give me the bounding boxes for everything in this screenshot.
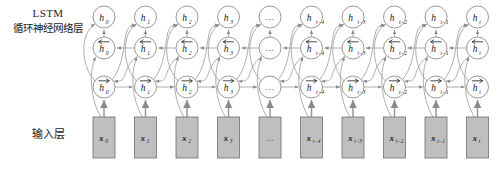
node-output-2[interactable]: h2 [176,6,198,28]
node-label: h [431,44,436,54]
node-subscript: t−1 [440,50,448,56]
node-subscript: 2 [189,50,192,56]
node-circle [176,76,198,98]
node-ellipsis: … [266,12,274,22]
input-box-rect [135,117,157,158]
node-output-7[interactable]: ht−2 [384,6,408,28]
input-box-4[interactable]: … [259,117,281,158]
input-box-3[interactable]: x3 [218,117,240,158]
input-box-2[interactable]: x2 [176,117,198,158]
node-backward-5[interactable]: ht−4 [301,37,325,59]
input-box-9[interactable]: xt [467,117,489,158]
node-forward-3[interactable]: h3 [218,76,240,98]
node-backward-1[interactable]: h1 [135,37,157,59]
node-label: h [473,44,478,54]
bilstm-diagram: LSTM 循环神经网络层 输入层 h0h0h0x0h1h1h1x1h2h2h2x… [0,0,503,174]
node-circle [384,76,406,98]
node-output-9[interactable]: ht [467,6,489,28]
node-label: h [182,83,187,93]
edge-skip-forward [237,26,261,80]
node-backward-3[interactable]: h3 [218,37,240,59]
edge-forward-to-output [208,24,219,81]
input-box-6[interactable]: xt−3 [342,117,364,158]
node-label: h [307,83,312,93]
node-label: h [182,13,187,23]
node-label: h [431,13,436,23]
node-output-8[interactable]: ht−1 [425,6,449,28]
node-label: h [473,13,478,23]
node-subscript: 0 [106,50,109,56]
node-label: h [224,83,229,93]
node-forward-6[interactable]: ht−3 [342,76,366,98]
edge-forward-to-output [416,24,427,81]
node-backward-8[interactable]: ht−1 [425,37,449,59]
edge-forward-to-output [167,24,178,81]
node-forward-0[interactable]: h0 [93,76,115,98]
node-subscript: t−2 [399,19,407,25]
input-subscript: 3 [229,138,233,144]
node-backward-7[interactable]: ht−2 [384,37,408,59]
input-box-8[interactable]: xt−1 [425,117,447,158]
node-forward-7[interactable]: ht−2 [384,76,408,98]
node-circle [135,76,157,98]
input-box-7[interactable]: xt−2 [384,117,406,158]
node-forward-8[interactable]: ht−1 [425,76,449,98]
node-circle [384,37,406,59]
node-output-4[interactable]: … [259,6,281,28]
node-circle [301,76,323,98]
node-output-6[interactable]: ht−3 [342,6,366,28]
edge-forward-to-output [333,24,344,81]
node-subscript: 1 [147,50,150,56]
node-subscript: 2 [189,19,192,25]
node-subscript: t−4 [316,50,324,56]
input-subscript: t−3 [354,138,362,144]
node-backward-6[interactable]: ht−3 [342,37,366,59]
edge-skip-forward [195,26,219,80]
node-subscript: t−1 [440,89,448,95]
node-output-3[interactable]: h3 [218,6,240,28]
node-subscript: t−3 [357,50,365,56]
node-label: h [348,44,353,54]
node-label: h [99,83,104,93]
node-forward-9[interactable]: ht [467,76,489,98]
node-circle [218,76,240,98]
node-backward-4[interactable]: … [259,37,281,59]
node-circle [93,37,115,59]
node-output-0[interactable]: h0 [93,6,115,28]
node-forward-4[interactable]: … [259,76,281,98]
node-label: h [224,13,229,23]
input-label: x [98,133,104,143]
node-output-1[interactable]: h1 [135,6,157,28]
node-output-5[interactable]: ht−4 [301,6,325,28]
node-ellipsis: … [266,82,274,92]
node-circle [342,6,364,28]
node-circle [218,6,240,28]
node-subscript: 3 [229,19,233,25]
input-label: x [306,133,312,143]
node-subscript: 2 [189,89,192,95]
node-label: h [141,83,146,93]
node-backward-2[interactable]: h2 [176,37,198,59]
input-box-5[interactable]: xt−4 [301,117,323,158]
node-circle [301,6,323,28]
input-ellipsis: … [266,134,273,143]
input-subscript: 2 [188,138,191,144]
node-forward-1[interactable]: h1 [135,76,157,98]
edge-skip-forward [112,26,136,80]
node-subscript: 1 [147,19,150,25]
edge-forward-to-output [374,24,385,81]
node-subscript: 0 [106,89,109,95]
node-forward-5[interactable]: ht−4 [301,76,325,98]
input-box-rect [218,117,240,158]
input-label: x [430,133,436,143]
node-circle [467,37,489,59]
node-backward-0[interactable]: h0 [93,37,115,59]
node-subscript: t−2 [399,50,407,56]
node-forward-2[interactable]: h2 [176,76,198,98]
node-backward-9[interactable]: ht [467,37,489,59]
node-circle [176,6,198,28]
node-subscript: 3 [229,89,233,95]
input-box-1[interactable]: x1 [135,117,157,158]
input-box-0[interactable]: x0 [93,117,115,158]
node-circle [301,37,323,59]
